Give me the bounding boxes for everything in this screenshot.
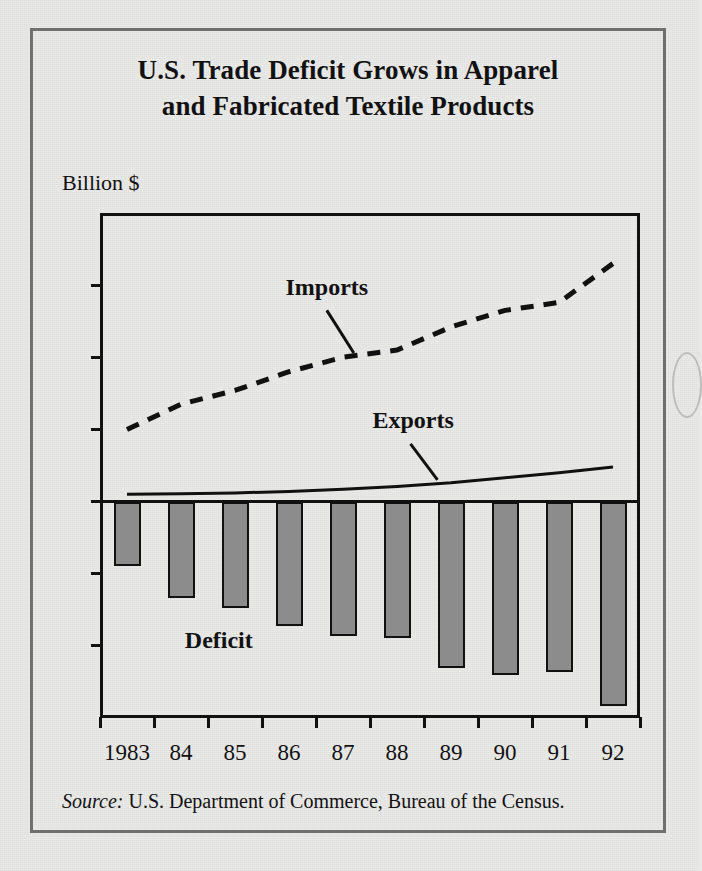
x-tick bbox=[99, 717, 102, 728]
x-tick-label: 89 bbox=[440, 740, 463, 766]
leader-line-imports bbox=[327, 310, 354, 353]
imports-line bbox=[127, 264, 613, 430]
exports-line bbox=[127, 467, 613, 494]
chart-title-line-1: U.S. Trade Deficit Grows in Apparel bbox=[138, 55, 559, 85]
x-tick-label: 92 bbox=[602, 740, 625, 766]
chart-title-line-2: and Fabricated Textile Products bbox=[30, 88, 666, 124]
x-tick-label: 84 bbox=[170, 740, 193, 766]
trade-lines bbox=[100, 213, 640, 718]
source-prefix: Source: bbox=[62, 790, 123, 812]
x-tick bbox=[639, 717, 642, 728]
x-tick bbox=[261, 717, 264, 728]
x-tick bbox=[315, 717, 318, 728]
x-tick bbox=[369, 717, 372, 728]
page-edge-mark bbox=[672, 352, 702, 418]
plot-area: 403020100-10-20-30 ImportsExportsDeficit… bbox=[100, 213, 640, 718]
x-tick bbox=[153, 717, 156, 728]
leader-line-exports bbox=[411, 444, 438, 480]
x-tick bbox=[477, 717, 480, 728]
x-tick-label: 85 bbox=[224, 740, 247, 766]
x-tick bbox=[585, 717, 588, 728]
annotation-exports: Exports bbox=[373, 407, 454, 434]
annotation-imports: Imports bbox=[285, 274, 368, 301]
x-tick-label: 87 bbox=[332, 740, 355, 766]
chart-title: U.S. Trade Deficit Grows in Apparel and … bbox=[30, 52, 666, 124]
annotation-deficit: Deficit bbox=[185, 627, 253, 654]
source-note: Source: U.S. Department of Commerce, Bur… bbox=[62, 790, 564, 813]
x-tick-label: 86 bbox=[278, 740, 301, 766]
zero-axis-line bbox=[100, 500, 640, 503]
x-tick-label: 1983 bbox=[104, 740, 150, 766]
x-tick bbox=[207, 717, 210, 728]
x-tick-label: 90 bbox=[494, 740, 517, 766]
source-text: U.S. Department of Commerce, Bureau of t… bbox=[123, 790, 564, 812]
x-tick bbox=[531, 717, 534, 728]
y-axis-unit-label: Billion $ bbox=[62, 170, 140, 196]
x-tick bbox=[423, 717, 426, 728]
x-tick-label: 88 bbox=[386, 740, 409, 766]
x-tick-label: 91 bbox=[548, 740, 571, 766]
